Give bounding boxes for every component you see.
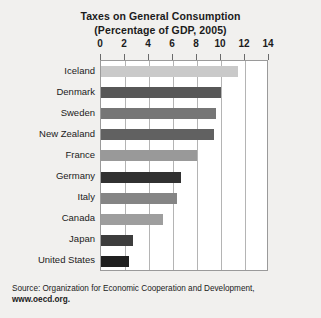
chart-title: Taxes on General Consumption: [0, 9, 321, 23]
x-tick-mark: [268, 54, 269, 60]
category-label: Germany: [0, 170, 95, 181]
category-label: Sweden: [0, 107, 95, 118]
category-label: France: [0, 149, 95, 160]
bar: [101, 256, 129, 267]
category-label: Italy: [0, 191, 95, 202]
bar: [101, 66, 238, 77]
source-line-1: Source: Organization for Economic Cooper…: [12, 283, 312, 294]
source-note: Source: Organization for Economic Cooper…: [12, 283, 312, 305]
category-label: New Zealand: [0, 128, 95, 139]
x-tick-label: 14: [253, 38, 283, 49]
bar: [101, 108, 216, 119]
bar: [101, 150, 197, 161]
category-label: Iceland: [0, 65, 95, 76]
bar: [101, 193, 177, 204]
category-label: United States: [0, 254, 95, 265]
category-label: Canada: [0, 212, 95, 223]
gridline: [245, 61, 246, 270]
x-axis-ticks: [100, 52, 269, 60]
plot-area: [100, 60, 268, 271]
chart-title-block: Taxes on General Consumption (Percentage…: [0, 9, 321, 37]
bar: [101, 214, 163, 225]
bar: [101, 87, 221, 98]
bar: [101, 129, 214, 140]
category-label: Denmark: [0, 86, 95, 97]
bar: [101, 235, 133, 246]
category-label: Japan: [0, 233, 95, 244]
chart-subtitle: (Percentage of GDP, 2005): [0, 23, 321, 37]
gridline: [221, 61, 222, 270]
source-line-2: www.oecd.org.: [12, 294, 312, 305]
chart-figure: Taxes on General Consumption (Percentage…: [0, 0, 321, 318]
bar: [101, 172, 181, 183]
